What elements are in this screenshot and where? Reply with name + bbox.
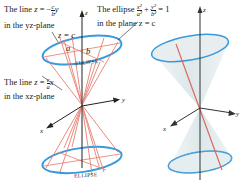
y-axis-label: y [122, 95, 125, 105]
label-plus: + [142, 4, 151, 14]
label-eq: = [38, 77, 47, 87]
label-eq: = 1 [156, 4, 169, 14]
bottom-ellipse-tag: ELLIPSE [74, 169, 98, 181]
line-yz-label-line2: in the yz-plane [4, 20, 55, 30]
right-z-axis-label: z [203, 5, 206, 15]
ellipse-label: The ellipse x²a² + y²b² = 1 [97, 4, 169, 17]
label-var: y [55, 4, 59, 14]
label-var: x [50, 77, 54, 87]
right-x-axis-label: x [163, 124, 166, 134]
z-axis-label: z [85, 8, 88, 18]
label-text: The line [4, 77, 34, 87]
line-xz-label: The line z = cax [4, 77, 54, 90]
line-xz-label-line2: in the xz-plane [4, 91, 55, 101]
label-text: The line [4, 4, 34, 14]
label-text: The ellipse [97, 4, 137, 14]
right-cone-surface [150, 6, 236, 180]
right-y-axis-label: y [236, 109, 239, 119]
line-yz-label: The line z = −cby [4, 4, 58, 17]
ellipse-label-line2: in the plane z = c [97, 18, 155, 28]
x-axis-label: x [40, 126, 43, 136]
plane-label: z = c [58, 30, 75, 40]
semi-axis-b-label: b [86, 46, 90, 56]
y-axis [82, 100, 116, 106]
label-eq: = − [38, 4, 52, 14]
semi-axis-a-label: a [66, 43, 70, 53]
right-y-axis [200, 108, 232, 113]
